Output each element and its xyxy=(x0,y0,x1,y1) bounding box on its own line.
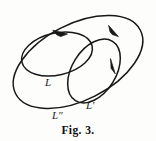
figure-container: L L′ L″ Fig. 3. xyxy=(0,0,156,141)
outer-loop-ellipse xyxy=(0,0,156,128)
curve-label-L: L xyxy=(45,77,51,88)
figure-drawing xyxy=(0,0,156,141)
curve-outer-loop xyxy=(0,0,156,128)
curve-inner-left-loop xyxy=(17,25,97,82)
curve-label-L-double-prime: L″ xyxy=(52,110,63,121)
inner-right-loop-arrow-icon xyxy=(111,59,116,74)
outer-loop-arrow-icon xyxy=(109,25,119,36)
curve-label-L-prime: L′ xyxy=(86,100,95,111)
figure-caption: Fig. 3. xyxy=(0,125,156,137)
